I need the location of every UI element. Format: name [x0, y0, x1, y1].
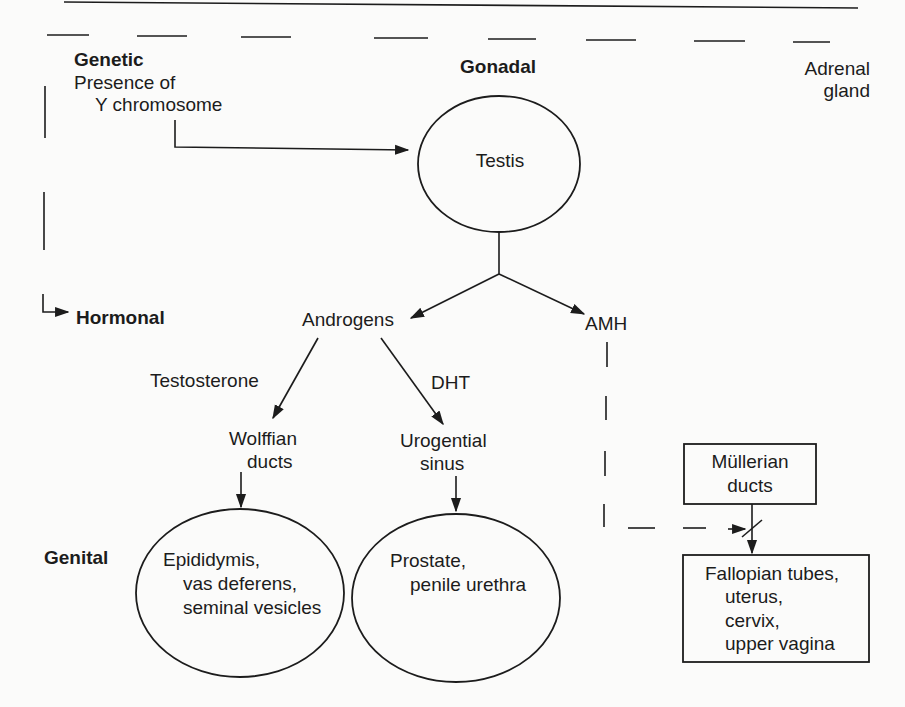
mullerian-ducts-line2: ducts	[727, 475, 772, 496]
urogenital-derivatives-node[interactable]	[352, 514, 560, 682]
arrow-y-chromosome-to-testis	[175, 120, 408, 150]
genetic-to-hormonal-dashed-line	[43, 86, 68, 312]
mullerian-derivative-line4: upper vagina	[725, 633, 835, 654]
wolffian-derivative-line1: Epididymis,	[163, 549, 260, 570]
level-label-gonadal: Gonadal	[460, 56, 536, 77]
testis-branch	[411, 232, 584, 318]
dht-label: DHT	[431, 372, 470, 393]
wolffian-derivative-line2: vas deferens,	[183, 573, 297, 594]
arrow-androgens-to-wolffian	[273, 338, 318, 418]
amh-inhibition-dashed-line	[604, 342, 745, 529]
adrenal-gland-line2: gland	[824, 80, 871, 101]
mullerian-ducts-line1: Müllerian	[711, 451, 788, 472]
dashed-separator	[47, 35, 830, 42]
wolffian-ducts-line1: Wolffian	[229, 428, 297, 449]
level-label-genital: Genital	[44, 547, 108, 568]
level-label-hormonal: Hormonal	[76, 307, 165, 328]
genetic-factor-line2: Y chromosome	[95, 94, 222, 115]
wolffian-ducts-line2: ducts	[247, 451, 292, 472]
amh-node[interactable]: AMH	[585, 313, 627, 334]
urogenital-derivative-line1: Prostate,	[390, 550, 466, 571]
testosterone-label: Testosterone	[150, 370, 259, 391]
urogenital-sinus-line1: Urogential	[400, 430, 487, 451]
mullerian-derivative-line1: Fallopian tubes,	[705, 563, 839, 584]
genetic-factor-line1: Presence of	[74, 72, 176, 93]
urogenital-sinus-line2: sinus	[420, 453, 464, 474]
sex-differentiation-diagram: Genetic Presence of Y chromosome Gonadal…	[0, 0, 905, 707]
level-label-genetic: Genetic	[74, 49, 144, 70]
wolffian-derivative-line3: seminal vesicles	[183, 597, 321, 618]
androgens-node[interactable]: Androgens	[302, 309, 394, 330]
mullerian-derivative-line2: uterus,	[725, 586, 783, 607]
urogenital-derivative-line2: penile urethra	[410, 574, 527, 595]
adrenal-gland-line1: Adrenal	[805, 58, 871, 79]
mullerian-derivative-line3: cervix,	[725, 610, 780, 631]
top-rule	[64, 2, 858, 8]
testis-label: Testis	[476, 150, 525, 171]
